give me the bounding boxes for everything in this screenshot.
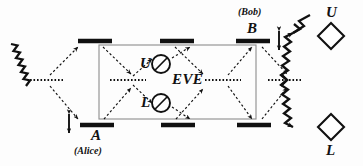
input-photon-beam (11, 44, 30, 86)
eve-upper-device-label: U (140, 56, 151, 71)
path-mirror-alice-to-eve-left-bs (104, 88, 131, 119)
eve-lower-detector (152, 94, 170, 112)
output-beam-to-lower-detector (281, 74, 293, 127)
detector-lower-diamond (318, 114, 344, 140)
eve-label: EVE (172, 72, 203, 87)
path-mirror-bottom-middle-to-eve-right-bs (176, 89, 203, 119)
path-mirror-bob-to-output-bs (262, 47, 287, 74)
detector-lower-label: L (326, 143, 335, 158)
alice-name-label: (Alice) (74, 146, 102, 156)
detector-upper-diamond (318, 23, 344, 49)
eve-lower-device-label: L (141, 95, 150, 110)
path-eve-upper-to-mirror-top-middle (172, 47, 190, 58)
path-mirror-top-left-to-eve-left-bs (103, 47, 131, 74)
eve-upper-detector (152, 55, 170, 73)
path-eve-right-bs-to-mirror-bottom-right (228, 86, 252, 119)
interferometer-diagram: EVE U L A (Alice) B (Bob) U L (0, 0, 363, 166)
bob-mirror-label: B (247, 21, 257, 36)
detector-upper-label: U (326, 5, 337, 20)
path-mirror-top-middle-to-eve-right-bs (175, 47, 203, 74)
path-eve-lower-to-mirror-bottom-middle (172, 107, 190, 119)
output-beam-to-upper-detector (281, 33, 293, 86)
path-bs1-to-mirror-alice (50, 86, 78, 119)
bob-name-label: (Bob) (238, 7, 261, 17)
path-eve-right-bs-to-mirror-bob (228, 47, 252, 75)
alice-mirror-label: A (91, 128, 101, 143)
path-bs1-to-mirror-top-left (50, 47, 78, 75)
